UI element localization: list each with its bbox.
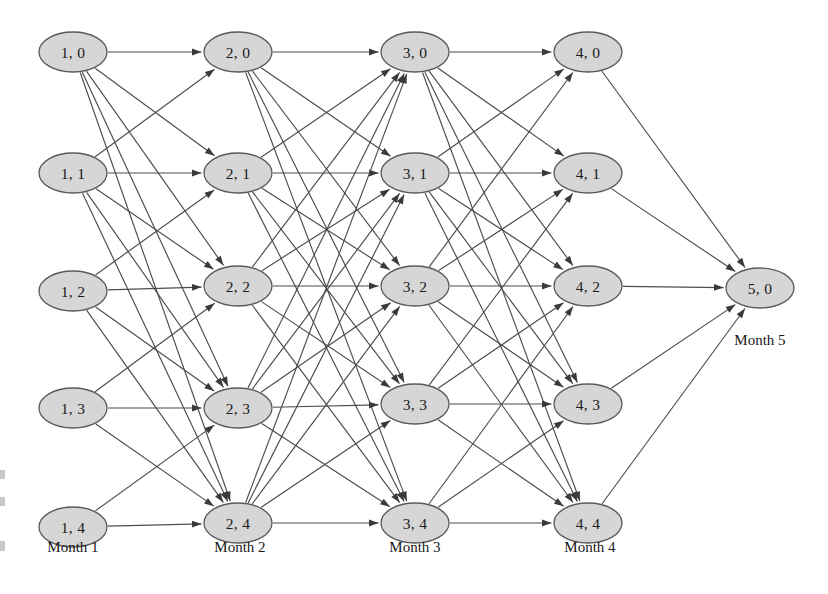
node-label: 2, 4 <box>226 515 250 532</box>
scan-artifact-layer <box>0 470 5 551</box>
edge-line <box>261 68 390 157</box>
edge-3-4-to-4-2 <box>429 307 573 504</box>
edge-line <box>95 425 214 511</box>
arrow-head-icon <box>554 498 564 506</box>
node-4-3[interactable]: 4, 3 <box>554 384 622 424</box>
node-1-2[interactable]: 1, 2 <box>39 271 107 311</box>
edge-line <box>95 68 214 156</box>
arrow-head-icon <box>714 284 724 291</box>
arrow-head-icon <box>205 303 215 311</box>
column-label-month-1: Month 1 <box>47 539 98 555</box>
node-1-3[interactable]: 1, 3 <box>39 388 107 428</box>
column-label-month-5: Month 5 <box>734 332 785 348</box>
node-3-2[interactable]: 3, 2 <box>381 266 449 306</box>
edge-line <box>95 69 214 157</box>
arrow-head-icon <box>553 262 563 270</box>
edge-line <box>602 309 745 504</box>
node-label: 1, 3 <box>61 400 85 417</box>
node-4-4[interactable]: 4, 4 <box>554 503 622 543</box>
arrow-head-icon <box>554 379 564 387</box>
arrow-head-icon <box>564 72 572 82</box>
edge-line <box>248 72 404 382</box>
column-label-month-2: Month 2 <box>214 539 265 555</box>
edge-1-4-to-2-4 <box>108 521 202 528</box>
node-3-3[interactable]: 3, 3 <box>381 384 449 424</box>
arrow-head-icon <box>192 49 202 56</box>
node-label: 5, 0 <box>748 280 772 297</box>
edge-2-3-to-3-1 <box>252 193 399 388</box>
node-3-0[interactable]: 3, 0 <box>381 32 449 72</box>
arrow-head-icon <box>391 306 399 316</box>
arrow-head-icon <box>564 193 572 203</box>
arrow-head-icon <box>380 379 390 387</box>
arrow-head-icon <box>369 402 379 409</box>
edge-1-0-to-2-0 <box>108 49 202 56</box>
figure-canvas: 1, 01, 11, 21, 31, 42, 02, 12, 22, 32, 4… <box>0 0 828 594</box>
edge-3-0-to-4-3 <box>425 72 578 382</box>
node-1-0[interactable]: 1, 0 <box>39 32 107 72</box>
edge-4-4-to-5-0 <box>602 309 745 504</box>
edge-line <box>252 193 399 388</box>
arrow-head-icon <box>205 147 215 155</box>
edge-line <box>425 193 577 501</box>
node-5-0[interactable]: 5, 0 <box>726 268 794 308</box>
node-4-0[interactable]: 4, 0 <box>554 32 622 72</box>
node-label: 1, 4 <box>61 519 85 536</box>
edge-2-4-to-3-4 <box>273 520 379 527</box>
edge-line <box>252 71 399 265</box>
arrow-head-icon <box>204 383 214 391</box>
edge-3-0-to-4-1 <box>438 68 564 156</box>
node-label: 2, 2 <box>226 278 250 295</box>
edge-3-3-to-4-1 <box>429 193 572 384</box>
node-2-1[interactable]: 2, 1 <box>204 153 272 193</box>
node-label: 4, 3 <box>576 396 600 413</box>
edge-line <box>429 193 572 384</box>
edge-3-1-to-4-4 <box>425 193 577 501</box>
node-label: 4, 1 <box>576 165 600 182</box>
node-label: 3, 1 <box>403 165 427 182</box>
arrow-head-icon <box>381 148 391 156</box>
node-2-3[interactable]: 2, 3 <box>204 388 272 428</box>
edge-4-0-to-5-0 <box>602 71 745 267</box>
node-3-1[interactable]: 3, 1 <box>381 153 449 193</box>
edge-line <box>611 189 735 272</box>
edge-3-2-to-4-0 <box>429 72 573 266</box>
arrow-head-icon <box>542 283 552 290</box>
node-2-4[interactable]: 2, 4 <box>204 503 272 543</box>
arrow-head-icon <box>380 499 390 507</box>
edge-line <box>438 69 564 157</box>
arrow-head-icon <box>369 283 379 290</box>
node-4-1[interactable]: 4, 1 <box>554 153 622 193</box>
node-label: 3, 0 <box>403 44 427 61</box>
arrow-head-icon <box>192 170 202 177</box>
edge-2-1-to-3-0 <box>261 69 390 158</box>
node-4-2[interactable]: 4, 2 <box>554 266 622 306</box>
edge-2-0-to-3-0 <box>273 49 379 56</box>
edge-line <box>623 286 724 287</box>
arrow-head-icon <box>565 307 573 317</box>
edge-4-2-to-5-0 <box>623 284 724 291</box>
edge-2-3-to-3-0 <box>248 74 404 388</box>
edge-1-0-to-2-2 <box>87 71 224 265</box>
node-label: 1, 0 <box>61 44 85 61</box>
arrow-head-icon <box>204 190 214 198</box>
node-1-1[interactable]: 1, 1 <box>39 153 107 193</box>
node-label: 1, 2 <box>61 283 85 300</box>
arrow-head-icon <box>554 69 564 77</box>
arrow-head-icon <box>564 256 572 266</box>
edge-3-1-to-4-3 <box>429 192 572 383</box>
arrow-head-icon <box>205 69 215 77</box>
arrow-head-icon <box>204 498 214 506</box>
edge-line <box>95 190 214 275</box>
arrow-head-icon <box>380 189 390 197</box>
node-3-4[interactable]: 3, 4 <box>381 503 449 543</box>
node-2-2[interactable]: 2, 2 <box>204 266 272 306</box>
scan-artifact <box>0 497 5 506</box>
edge-3-0-to-4-2 <box>429 71 573 265</box>
edge-4-1-to-5-0 <box>611 189 735 272</box>
node-2-0[interactable]: 2, 0 <box>204 32 272 72</box>
edge-line <box>438 68 564 156</box>
arrow-head-icon <box>554 148 564 156</box>
node-label: 4, 0 <box>576 44 600 61</box>
arrow-head-icon <box>737 309 745 319</box>
